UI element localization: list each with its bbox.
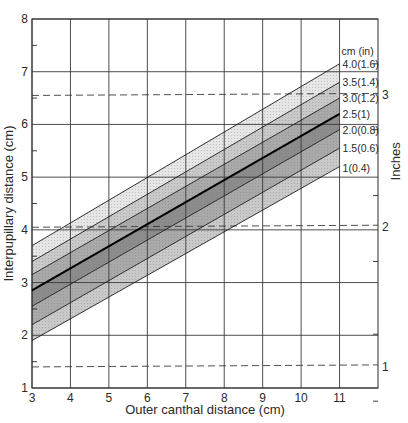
y2-tick-label: 2 — [382, 220, 389, 234]
y-tick-label: 8 — [21, 12, 28, 26]
band-label: 1(0.4) — [343, 162, 370, 174]
band-label: 2.0(0.8) — [343, 124, 379, 136]
band-label: 3.0(1.2) — [343, 92, 379, 104]
y-axis-title: Interpupillary distance (cm) — [1, 125, 16, 281]
x-tick-label: 11 — [333, 391, 346, 405]
band-label: 3.5(1.4) — [343, 76, 379, 88]
chart-canvas: cm (in)4.0(1.6)3.5(1.4)3.0(1.2)2.5(1)2.0… — [0, 0, 408, 423]
x-axis-title: Outer canthal distance (cm) — [125, 402, 285, 417]
x-tick-label: 10 — [294, 391, 308, 405]
y-tick-label: 5 — [21, 170, 28, 184]
legend-header: cm (in) — [342, 45, 374, 57]
y-tick-label: 3 — [21, 276, 28, 290]
y2-axis-title: Inches — [388, 142, 403, 181]
y-tick-label: 1 — [21, 381, 28, 395]
y-tick-label: 6 — [21, 117, 28, 131]
y2-tick-label: 3 — [382, 88, 389, 102]
x-tick-label: 4 — [67, 391, 74, 405]
band-label: 4.0(1.6) — [343, 58, 379, 70]
chart: cm (in)4.0(1.6)3.5(1.4)3.0(1.2)2.5(1)2.0… — [0, 0, 408, 423]
x-tick-label: 3 — [29, 391, 36, 405]
inch-reference-dashed-line — [32, 365, 378, 367]
y-tick-label: 4 — [21, 223, 28, 237]
y2-tick-label: 1 — [382, 360, 389, 374]
band-label: 1.5(0.6) — [343, 142, 379, 154]
y-tick-label: 2 — [21, 328, 28, 342]
y-tick-label: 7 — [21, 65, 28, 79]
x-tick-label: 5 — [106, 391, 113, 405]
band-label: 2.5(1) — [343, 108, 370, 120]
